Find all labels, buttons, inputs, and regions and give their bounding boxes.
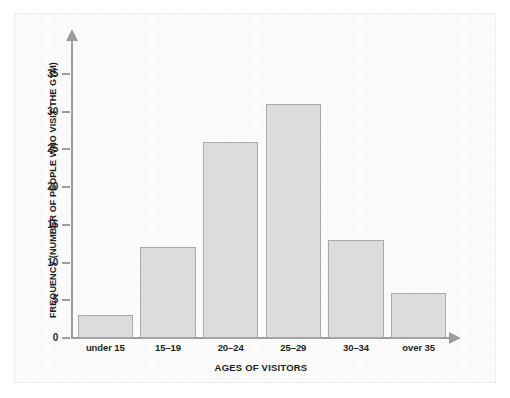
y-axis-tick xyxy=(62,111,70,113)
x-axis-tick-label: under 15 xyxy=(74,342,137,353)
y-axis-tick xyxy=(62,262,70,264)
x-axis-tick-label: over 35 xyxy=(387,342,450,353)
bar xyxy=(78,315,134,338)
x-axis-tick-label: 25–29 xyxy=(262,342,325,353)
y-axis-tick xyxy=(62,299,70,301)
y-axis-tick xyxy=(62,148,70,150)
y-axis-tick xyxy=(62,186,70,188)
x-axis-tick-label: 20–24 xyxy=(199,342,262,353)
bar xyxy=(140,247,196,338)
x-axis-arrow-icon xyxy=(449,332,461,344)
y-axis-tick xyxy=(62,224,70,226)
figure-root: 05101520253035 under 1515–1920–2425–2930… xyxy=(0,0,510,398)
bar-chart-plot-area: 05101520253035 under 1515–1920–2425–2930… xyxy=(0,0,510,398)
y-axis-line xyxy=(71,40,73,339)
x-axis-tick-label: 30–34 xyxy=(325,342,388,353)
x-axis-tick-label: 15–19 xyxy=(137,342,200,353)
y-axis-title: FREQUENCY (NUMBER OF PEOPLE WHO VISIT TH… xyxy=(48,40,58,340)
bar xyxy=(266,104,322,338)
y-axis-arrow-icon xyxy=(66,29,78,41)
x-axis-title: AGES OF VISITORS xyxy=(71,362,451,373)
y-axis-tick xyxy=(62,337,70,339)
bar xyxy=(391,293,447,338)
y-axis-tick xyxy=(62,73,70,75)
bar xyxy=(203,142,259,338)
bar xyxy=(328,240,384,338)
